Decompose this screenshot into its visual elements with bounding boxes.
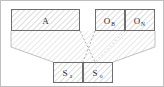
block-on[interactable]: O N <box>126 10 155 31</box>
block-sa-label: S <box>62 68 67 78</box>
block-a-label: A <box>42 16 49 26</box>
diagram-canvas: A O B O N S a S o <box>0 0 164 87</box>
block-on-label: O <box>134 16 141 26</box>
block-ob-subscript: B <box>111 21 115 27</box>
block-ob-label: O <box>104 16 111 26</box>
block-so-rect <box>84 63 113 83</box>
block-a[interactable]: A <box>12 10 80 31</box>
block-sa[interactable]: S a <box>54 63 83 83</box>
block-so[interactable]: S o <box>84 63 113 83</box>
block-so-subscript: o <box>100 73 103 79</box>
diagram-svg: A O B O N S a S o <box>0 0 164 87</box>
block-on-subscript: N <box>141 21 145 27</box>
block-so-label: S <box>92 68 97 78</box>
block-sa-rect <box>54 63 83 83</box>
block-ob[interactable]: O B <box>96 10 125 31</box>
